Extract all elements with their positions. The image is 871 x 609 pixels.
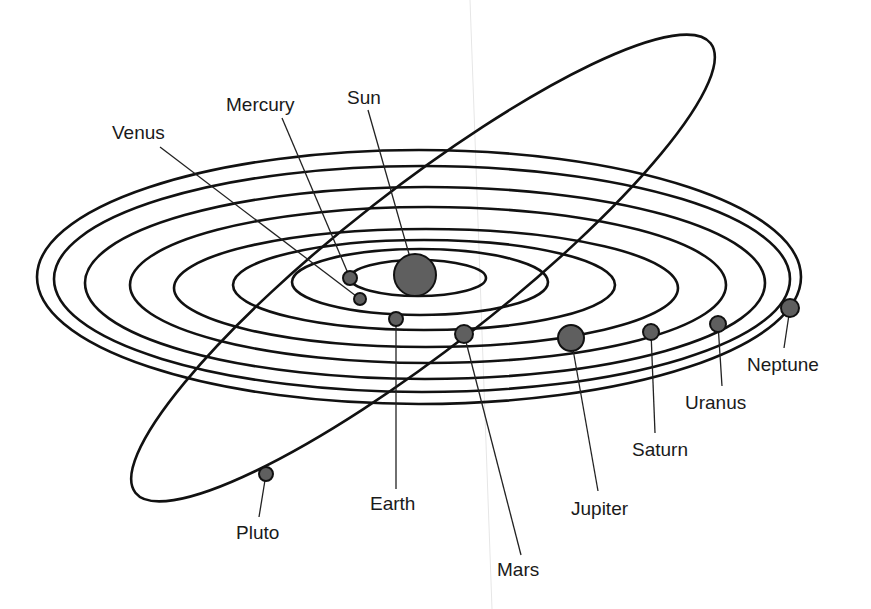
saturn-planet — [643, 324, 659, 340]
jupiter-label: Jupiter — [571, 498, 629, 519]
mars-leader-line — [464, 334, 521, 555]
venus-label: Venus — [112, 122, 165, 143]
mars-label: Mars — [497, 559, 539, 580]
saturn-label: Saturn — [632, 439, 688, 460]
mercury-label: Mercury — [226, 94, 295, 115]
uranus-label: Uranus — [685, 392, 746, 413]
jupiter-planet — [558, 325, 584, 351]
mercury-planet — [343, 271, 357, 285]
sun — [394, 254, 436, 296]
solar-system-diagram: SunMercuryVenusEarthMarsJupiterSaturnUra… — [0, 0, 871, 609]
pluto-planet — [259, 467, 273, 481]
mars-planet — [455, 325, 473, 343]
uranus-planet — [710, 316, 726, 332]
neptune-label: Neptune — [747, 354, 819, 375]
pluto-label: Pluto — [236, 522, 279, 543]
sun-body — [394, 254, 436, 296]
sun-label: Sun — [347, 87, 381, 108]
earth-planet — [389, 312, 403, 326]
saturn-leader-line — [651, 332, 655, 433]
mercury-leader-line — [282, 118, 350, 278]
jupiter-leader-line — [571, 338, 598, 491]
page-fold-line — [470, 0, 492, 609]
venus-planet — [354, 293, 366, 305]
neptune-planet — [781, 299, 799, 317]
earth-label: Earth — [370, 493, 415, 514]
